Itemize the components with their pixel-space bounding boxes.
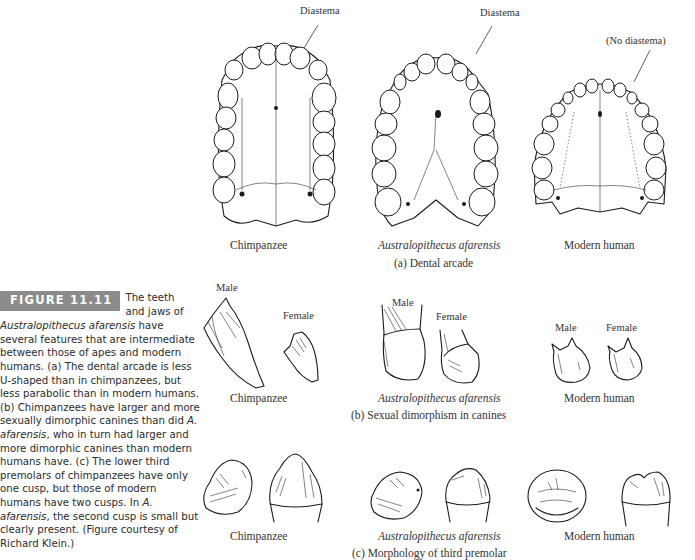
panel-a-modern-human-label: Modern human [564,239,635,251]
chimp-diastema-pointer [300,22,330,52]
afarensis-female-canine-drawing [436,330,486,390]
panel-b-title: (b) Sexual dimorphism in canines [351,409,506,421]
panel-a-afarensis-label: Australopithecus afarensis [378,239,501,251]
panel-b-chimpanzee-label: Chimpanzee [230,392,287,404]
human-female-label: Female [606,322,637,333]
panel-b-afarensis-label: Australopithecus afarensis [378,392,501,404]
chimp-premolar-lateral-drawing [266,452,326,528]
figure-number-badge: FIGURE 11.11 [0,291,120,311]
chimpanzee-dental-arcade-drawing [212,40,342,230]
caption-body: Australopithecus afarensis have several … [0,319,200,550]
panel-c-afarensis-label: Australopithecus afarensis [378,530,501,542]
afarensis-diastema-label: Diastema [480,7,520,18]
human-premolar-occlusal-drawing [526,468,588,524]
modern-human-dental-arcade-drawing [530,78,670,220]
human-male-canine-drawing [550,338,594,386]
human-male-label: Male [555,322,577,333]
human-no-diastema-pointer [628,48,658,88]
caption-species-name: Australopithecus afarensis [0,320,135,331]
chimp-male-canine-drawing [200,298,270,390]
chimp-male-label: Male [216,282,238,293]
chimp-female-label: Female [283,310,314,321]
chimp-diastema-label: Diastema [300,5,340,16]
panel-b-modern-human-label: Modern human [564,392,635,404]
afarensis-dental-arcade-drawing [368,50,503,232]
caption-lead-line-1: The teeth [125,292,174,303]
afarensis-premolar-occlusal-drawing [368,470,424,522]
human-no-diastema-label: (No diastema) [606,35,666,46]
chimp-female-canine-drawing [280,330,322,384]
afarensis-premolar-lateral-drawing [442,466,492,528]
afarensis-female-label: Female [436,311,467,322]
afarensis-male-canine-drawing [378,305,430,385]
panel-a-title: (a) Dental arcade [394,257,473,269]
human-premolar-lateral-drawing [618,470,674,530]
caption-text-part-2: , who in turn had larger and more dimorp… [0,429,192,508]
caption-header: FIGURE 11.11 The teeth and jaws of [0,291,200,318]
human-female-canine-drawing [606,338,646,384]
panel-c-modern-human-label: Modern human [564,530,635,542]
chimp-premolar-occlusal-drawing [200,458,254,518]
afarensis-diastema-pointer [470,20,500,60]
figure-caption: FIGURE 11.11 The teeth and jaws of Austr… [0,291,200,550]
panel-c-chimpanzee-label: Chimpanzee [230,530,287,542]
panel-c-title: (c) Morphology of third premolar [352,547,507,559]
caption-text-part-1: have several features that are intermedi… [0,320,200,426]
panel-a-chimpanzee-label: Chimpanzee [230,239,287,251]
caption-lead-line-2: and jaws of [125,306,183,317]
